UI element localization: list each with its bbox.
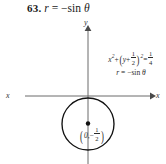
polar-theta: θ [142,68,146,77]
cartesian-open-paren: ( [119,55,122,66]
point-fraction-denominator: 2 [94,135,99,142]
rhs-fraction-denominator: 4 [148,59,153,66]
inner-fraction-numerator: 1 [131,50,136,57]
polar-graph-figure: 63.r = −sin θ x x y x2+(y+12)2=14 r = −s… [0,0,166,164]
point-y-fraction: 12 [94,126,99,142]
equation-annotations: x2+(y+12)2=14 r = −sin θ [96,50,166,78]
polar-equation: r = −sin θ [96,67,166,78]
cartesian-plus: + [114,55,118,64]
point-open-paren: ( [80,132,83,142]
point-minus-sign: − [90,131,94,140]
polar-r: r [116,68,119,77]
point-fraction-numerator: 1 [94,126,99,133]
center-point-label: (0,−12) [72,126,112,142]
x-axis-label-right: x [156,92,160,100]
polar-equals: = [121,68,125,77]
rhs-fraction-numerator: 1 [148,50,153,57]
x-axis-label-left: x [6,92,10,100]
polar-sine-function: sin [131,68,140,77]
cartesian-equation: x2+(y+12)2=14 [96,50,166,66]
cartesian-rhs-fraction: 14 [148,50,153,66]
cartesian-inner-fraction: 12 [131,50,136,66]
cartesian-inner-plus: + [126,55,130,64]
y-axis-label: y [84,19,88,27]
point-close-paren: ) [101,132,104,142]
cartesian-equals: = [143,55,147,64]
inner-fraction-denominator: 2 [131,59,136,66]
